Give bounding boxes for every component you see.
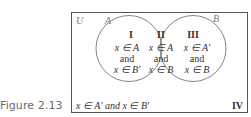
region-iii-line2: and	[190, 53, 204, 64]
region-iii-line1: x ∈ A′	[183, 42, 211, 53]
region-iii-numeral: III	[187, 29, 199, 40]
region-iii-line3: x ∈ B	[184, 64, 210, 75]
venn-diagram: U A B I x ∈ A and x ∈ B′ II x ∈ A and x …	[0, 0, 251, 117]
universe-label: U	[76, 15, 84, 26]
region-ii-line2: and	[154, 53, 168, 64]
region-ii-line1: x ∈ A	[148, 42, 174, 53]
set-b-label: B	[213, 13, 219, 24]
region-ii: II x ∈ A and x ∈ B	[148, 29, 174, 75]
region-iv-text: x ∈ A′ and x ∈ B′	[75, 100, 150, 111]
region-i-line3: x ∈ B′	[113, 64, 142, 75]
region-ii-line3: x ∈ B	[148, 64, 174, 75]
region-i-line1: x ∈ A	[114, 42, 140, 53]
region-i: I x ∈ A and x ∈ B′	[113, 29, 142, 75]
set-a-label: A	[104, 15, 112, 26]
region-iii: III x ∈ A′ and x ∈ B	[183, 29, 211, 75]
region-i-numeral: I	[129, 29, 133, 40]
region-ii-numeral: II	[157, 29, 165, 40]
region-i-line2: and	[120, 53, 134, 64]
region-iv-numeral: IV	[232, 100, 244, 111]
region-iv: x ∈ A′ and x ∈ B′ IV	[75, 100, 244, 111]
